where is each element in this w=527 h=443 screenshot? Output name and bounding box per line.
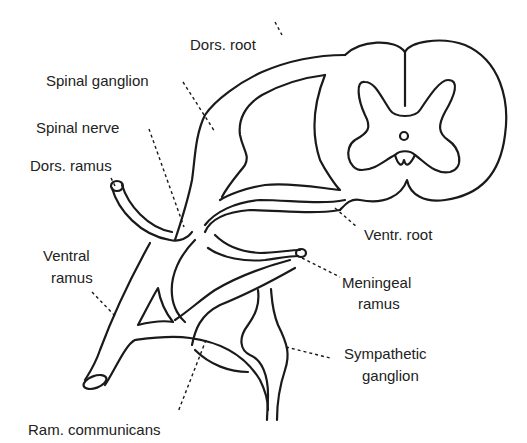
label-ventral-ramus-line2: ramus xyxy=(51,269,93,286)
label-sympathetic-ganglion-line1: Sympathetic xyxy=(344,345,427,362)
label-ventral-ramus-line1: Ventral xyxy=(43,247,90,264)
meningeal-ramus xyxy=(208,235,306,261)
spinal-nerve-diagram: Dors. root Spinal ganglion Spinal nerve … xyxy=(0,0,527,443)
sympathetic-ganglion xyxy=(195,289,288,420)
label-ventr-root: Ventr. root xyxy=(364,226,433,243)
label-dors-ramus: Dors. ramus xyxy=(30,157,112,174)
label-sympathetic-ganglion-line2: ganglion xyxy=(362,367,419,384)
ventral-root xyxy=(205,200,345,232)
label-spinal-ganglion: Spinal ganglion xyxy=(46,72,149,89)
spinal-nerve-trunk xyxy=(82,181,295,410)
label-spinal-nerve: Spinal nerve xyxy=(36,119,119,136)
spinal-cord xyxy=(340,41,506,210)
label-ram-communicans: Ram. communicans xyxy=(28,421,161,438)
label-meningeal-ramus-line2: ramus xyxy=(358,295,400,312)
label-dors-root: Dors. root xyxy=(190,36,257,53)
label-meningeal-ramus-line1: Meningeal xyxy=(342,274,411,291)
